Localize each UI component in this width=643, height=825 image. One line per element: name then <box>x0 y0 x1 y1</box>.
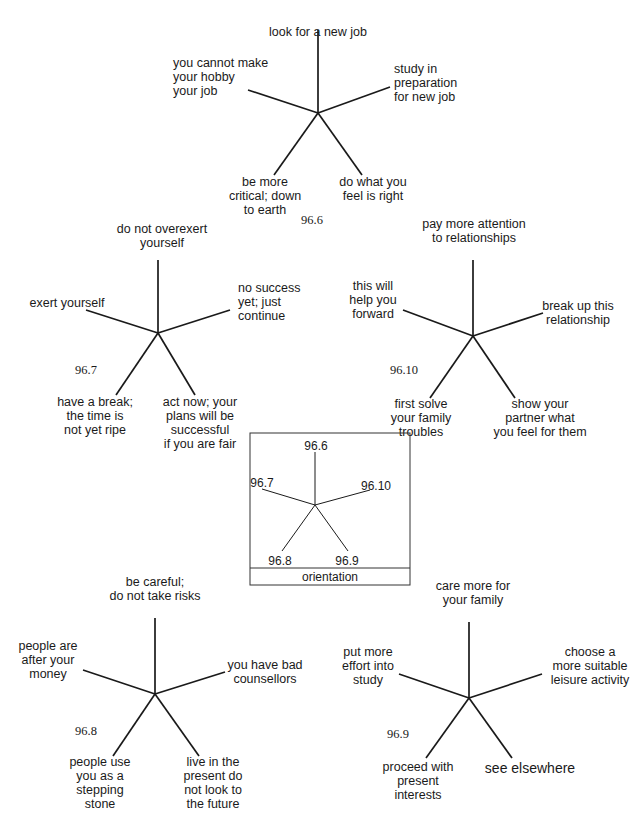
spoke-lower-left <box>113 694 155 756</box>
pentagram-96-10: pay more attentionto relationshipsthis w… <box>349 217 613 439</box>
spoke-label-upper-right: choose amore suitableleisure activity <box>551 645 630 687</box>
spoke-lower-left <box>430 336 473 398</box>
spoke-label-upper-right: no successyet; justcontinue <box>238 281 301 323</box>
spoke-label-upper-left: exert yourself <box>29 296 105 310</box>
spoke-upper-left <box>83 670 155 694</box>
spoke-label-lower-right: act now; yourplans will besuccessfulif y… <box>163 395 237 451</box>
spoke-upper-left <box>248 90 318 113</box>
spoke-lower-right <box>155 694 199 756</box>
orientation-key: orientation 96.696.796.1096.896.9 <box>250 433 410 585</box>
spoke-upper-right <box>158 310 230 333</box>
spoke-label-upper-left: put moreeffort intostudy <box>342 645 394 687</box>
diagram-id-label: 96.10 <box>390 363 418 377</box>
diagram-id-label: 96.6 <box>301 213 323 227</box>
spoke-lower-right <box>469 698 512 758</box>
orientation-spoke-label: 96.9 <box>335 554 359 568</box>
spoke-label-lower-left: have a break;the time isnot yet ripe <box>57 395 133 437</box>
spoke-label-up: be careful;do not take risks <box>109 575 200 603</box>
spoke-label-lower-right: see elsewhere <box>485 760 575 776</box>
orientation-spoke-label: 96.6 <box>304 439 328 453</box>
spoke-label-upper-right: study inpreparationfor new job <box>394 62 457 104</box>
orientation-spokes: 96.696.796.1096.896.9 <box>250 439 391 568</box>
diagram-group: look for a new jobyou cannot makeyour ho… <box>18 25 630 811</box>
spoke-label-upper-right: you have badcounsellors <box>227 658 302 686</box>
spoke-label-lower-left: proceed withpresentinterests <box>383 760 454 802</box>
orientation-spoke-label: 96.8 <box>268 554 292 568</box>
spoke-label-lower-left: people useyou as asteppingstone <box>69 755 130 811</box>
spoke-upper-right <box>469 674 542 698</box>
spoke-lower-left <box>274 113 318 175</box>
spoke-label-lower-right: live in thepresent donot look tothe futu… <box>183 755 242 811</box>
spoke-upper-left <box>403 310 473 336</box>
spoke-lower-right <box>473 336 515 398</box>
pentagram-96-7: do not overexertyourselfexert yourselfno… <box>29 222 300 451</box>
orientation-spoke <box>282 505 315 551</box>
spoke-label-lower-right: show yourpartner whatyou feel for them <box>493 397 586 439</box>
spoke-lower-right <box>318 113 362 175</box>
spoke-label-lower-right: do what youfeel is right <box>339 175 406 203</box>
orientation-spoke-label: 96.10 <box>361 479 391 493</box>
diagram-id-label: 96.9 <box>387 727 409 741</box>
spoke-label-up: do not overexertyourself <box>117 222 208 250</box>
orientation-spoke-label: 96.7 <box>250 476 274 490</box>
pentagram-96-9: care more foryour familyput moreeffort i… <box>342 579 630 802</box>
diagram-id-label: 96.8 <box>75 724 97 738</box>
spoke-lower-left <box>426 698 469 758</box>
spoke-lower-left <box>116 333 158 395</box>
spoke-label-up: look for a new job <box>269 25 367 39</box>
orientation-spoke <box>315 505 348 551</box>
spoke-upper-right <box>318 87 390 113</box>
pentagram-diagram-page: look for a new jobyou cannot makeyour ho… <box>0 0 643 825</box>
spoke-upper-left <box>399 674 469 698</box>
pentagram-96-8: be careful;do not take riskspeople areaf… <box>18 575 302 811</box>
diagram-id-label: 96.7 <box>75 363 97 377</box>
spoke-label-upper-right: break up thisrelationship <box>542 299 614 327</box>
orientation-spoke <box>262 489 315 505</box>
spoke-label-lower-left: be morecritical; downto earth <box>229 175 301 217</box>
spoke-label-up: care more foryour family <box>436 579 510 607</box>
orientation-title: orientation <box>302 570 358 584</box>
spoke-upper-right <box>155 672 225 694</box>
pentagram-96-6: look for a new jobyou cannot makeyour ho… <box>173 25 457 227</box>
spoke-label-upper-left: people areafter yourmoney <box>18 639 77 681</box>
spoke-upper-right <box>473 313 543 336</box>
spoke-label-upper-left: this willhelp youforward <box>349 279 396 321</box>
spoke-lower-right <box>158 333 195 395</box>
spoke-label-up: pay more attentionto relationships <box>422 217 526 245</box>
spoke-upper-left <box>86 310 158 333</box>
